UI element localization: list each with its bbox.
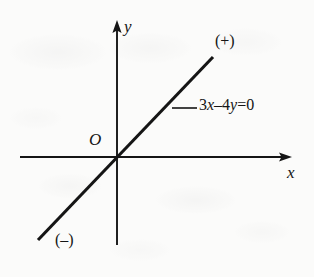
negative-side-label: (–) <box>55 232 74 248</box>
y-axis-label: y <box>124 18 132 35</box>
equation-label: 3x–4y=0 <box>199 97 254 113</box>
origin-label: O <box>89 131 101 148</box>
equation-operator: – <box>214 96 222 113</box>
coordinate-plane-svg <box>0 0 314 277</box>
equation-coefficient-y: 4 <box>222 96 230 113</box>
equation-equals-sign: = <box>237 96 246 113</box>
x-axis-label: x <box>287 164 295 181</box>
equation-rhs: 0 <box>246 96 254 113</box>
math-figure: y x O (+) (–) 3x–4y=0 <box>0 0 314 277</box>
equation-coefficient-x: 3 <box>199 96 207 113</box>
graph-line <box>38 57 213 240</box>
positive-side-label: (+) <box>215 33 235 49</box>
